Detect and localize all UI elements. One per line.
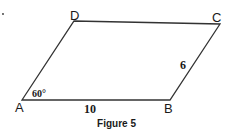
angle-a-label: 60° xyxy=(32,88,46,99)
vertex-label-a: A xyxy=(15,100,24,115)
side-bc-length: 6 xyxy=(180,58,186,72)
vertex-label-c: C xyxy=(212,10,221,25)
figure-caption: Figure 5 xyxy=(0,118,233,129)
vertex-label-d: D xyxy=(70,8,79,23)
parallelogram-abcd xyxy=(22,21,220,100)
stray-dot xyxy=(2,13,4,15)
side-ab-length: 10 xyxy=(84,102,96,116)
vertex-label-b: B xyxy=(164,101,173,116)
